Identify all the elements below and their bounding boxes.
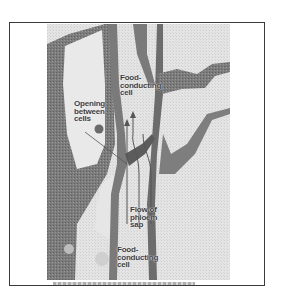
label-flow-of-phloem-sap: Flow of phloem sap <box>130 206 157 229</box>
phloem-micrograph <box>47 24 230 280</box>
label-top-food-conducting-cell: Food- conducting cell <box>120 74 161 97</box>
label-opening-between-cells: Opening between cells <box>74 100 105 123</box>
label-bottom-food-conducting-cell: Food- conducting cell <box>117 246 158 269</box>
micrograph-image <box>47 24 230 280</box>
image-credit-caption <box>53 282 195 285</box>
